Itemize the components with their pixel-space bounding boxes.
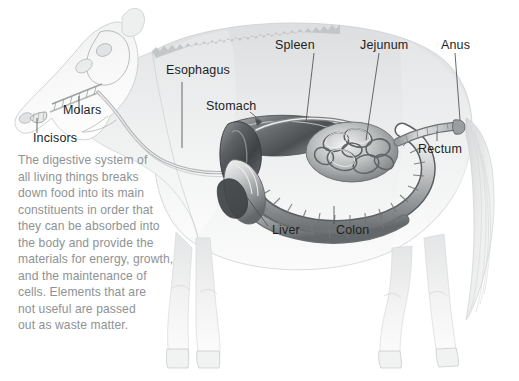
label-anus: Anus — [441, 39, 470, 52]
anus-opening — [453, 120, 465, 134]
label-colon: Colon — [336, 224, 369, 237]
label-spleen: Spleen — [275, 39, 315, 52]
horse-tail — [466, 118, 494, 320]
description-paragraph: The digestive system of all living thing… — [18, 152, 208, 334]
description-line: out as waste matter. — [18, 317, 208, 334]
jejunum-coils — [306, 122, 398, 182]
label-incisors: Incisors — [33, 132, 77, 145]
label-molars: Molars — [63, 104, 101, 117]
label-stomach: Stomach — [206, 100, 256, 113]
horse-hind-leg-near — [380, 246, 412, 364]
label-esophagus: Esophagus — [166, 64, 230, 77]
description-line: materials for energy, growth, — [18, 251, 208, 268]
label-liver: Liver — [272, 224, 300, 237]
description-line: constituents in order that — [18, 202, 208, 219]
description-line: all living things breaks — [18, 169, 208, 186]
label-jejunum: Jejunum — [360, 39, 408, 52]
description-line: the body and provide the — [18, 235, 208, 252]
description-line: The digestive system of — [18, 152, 208, 169]
horse-hind-leg-off — [424, 234, 456, 362]
diagram-figure: Molars Incisors Esophagus Stomach Spleen… — [0, 0, 519, 381]
description-line: and the maintenance of — [18, 268, 208, 285]
horse-ear — [122, 8, 145, 36]
description-line: not useful are passed — [18, 301, 208, 318]
label-rectum: Rectum — [418, 143, 462, 156]
description-line: down food into its main — [18, 185, 208, 202]
horse-hooves — [166, 348, 458, 368]
description-line: cells. Elements that are — [18, 284, 208, 301]
description-line: they can be absorbed into — [18, 218, 208, 235]
